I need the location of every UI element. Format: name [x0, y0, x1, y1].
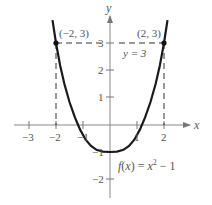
- x-axis-label: x: [193, 118, 200, 132]
- x-tick-label: −1: [77, 131, 89, 143]
- y-tick-label: −1: [92, 146, 104, 158]
- point-neg2-3: [53, 40, 58, 45]
- y-tick-label: 1: [98, 91, 104, 103]
- y-tick-label: 3: [98, 37, 104, 49]
- parabola-figure: x y −3 −2 −1 1 2 3 2 1 −1 −2 (−2, 3) (2,…: [0, 0, 212, 205]
- x-tick-label: 1: [134, 131, 140, 143]
- point-label-2-3: (2, 3): [137, 27, 161, 40]
- point-label-neg2-3: (−2, 3): [59, 27, 89, 40]
- function-label: f(x) = x2 − 1: [118, 158, 176, 173]
- y-tick-label: −2: [92, 173, 104, 185]
- x-tick-label: 2: [161, 131, 167, 143]
- x-tick-label: −2: [49, 131, 61, 143]
- y-tick-label: 2: [98, 64, 104, 76]
- x-tick-label: −3: [22, 131, 34, 143]
- point-2-3: [161, 40, 166, 45]
- y-axis-label: y: [105, 1, 112, 15]
- horizontal-line-label: y = 3: [122, 47, 147, 59]
